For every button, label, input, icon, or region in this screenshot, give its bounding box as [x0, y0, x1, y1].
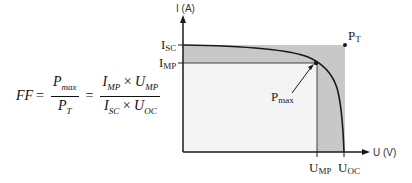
x-axis-arrow-icon	[362, 149, 370, 155]
y-axis-arrow-icon	[180, 15, 186, 23]
pmax-point	[314, 61, 318, 65]
x-axis-label: U (V)	[373, 147, 396, 158]
uoc-label: UOC	[338, 160, 360, 176]
max-power-area	[183, 63, 317, 152]
imp-label: IMP	[159, 55, 176, 71]
iv-curve-diagram: I (A) U (V) ISC IMP UMP UOC PT Pmax	[0, 0, 412, 183]
pt-label: PT	[348, 28, 361, 44]
pt-point	[343, 43, 347, 47]
isc-label: ISC	[161, 37, 176, 53]
ump-label: UMP	[309, 160, 331, 176]
y-axis-label: I (A)	[176, 3, 195, 14]
